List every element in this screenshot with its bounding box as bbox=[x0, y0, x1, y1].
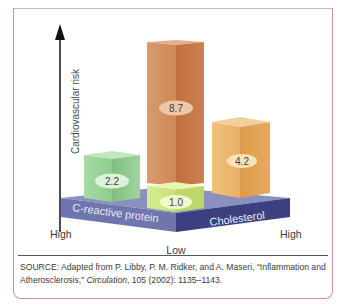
bar-low-crp-low-cholesterol: 1.0 bbox=[147, 182, 204, 212]
source-citation: SOURCE: Adapted from P. Libby, P. M. Rid… bbox=[20, 261, 328, 286]
bar-value-2-2: 2.2 bbox=[105, 176, 119, 187]
bar-value-8-7: 8.7 bbox=[169, 103, 183, 114]
bar-value-1-0: 1.0 bbox=[169, 197, 183, 208]
source-details: , 105 (2002): 1135–1143. bbox=[127, 275, 222, 285]
corner-label-right-high: High bbox=[280, 228, 302, 240]
arrow-up-icon bbox=[55, 24, 65, 40]
source-divider bbox=[18, 255, 328, 256]
chart-3d-bars: Cardiovascular risk C-reactive protein C… bbox=[0, 0, 346, 256]
bar-high-crp-high-cholesterol: 8.7 bbox=[147, 40, 204, 186]
bar-high-crp-low-cholesterol: 2.2 bbox=[84, 151, 140, 202]
corner-label-left-high: High bbox=[50, 228, 72, 240]
bar-low-crp-high-cholesterol: 4.2 bbox=[212, 117, 270, 198]
bar-value-4-2: 4.2 bbox=[235, 156, 249, 167]
source-journal: Circulation bbox=[86, 275, 127, 285]
y-axis-label: Cardiovascular risk bbox=[70, 68, 81, 154]
